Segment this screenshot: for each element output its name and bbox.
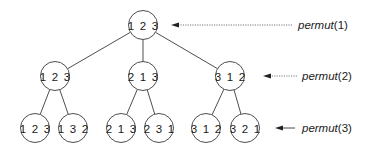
- tree-edge-l2a-l3a: [40, 90, 50, 115]
- tree-nodes: 1 2 31 2 32 1 33 1 21 2 31 3 22 1 32 3 1…: [20, 11, 262, 143]
- node-permutation-label: 1 2 3: [128, 20, 160, 32]
- tree-edge-l2c-l3e: [212, 89, 224, 115]
- tree-node-l3d: 2 3 1: [144, 114, 176, 143]
- level-1-label: permut(1): [297, 19, 348, 31]
- node-permutation-label: 1 3 2: [58, 123, 90, 135]
- level-1-argument: (1): [334, 19, 348, 31]
- level-2-function-name: permut: [301, 70, 339, 82]
- level-2-annotation: permut(2): [263, 70, 352, 82]
- level-2-argument: (2): [338, 70, 352, 82]
- node-permutation-label: 1 2 3: [20, 123, 52, 135]
- tree-node-l3f: 3 2 1: [230, 114, 262, 143]
- permutation-recursion-tree: 1 2 31 2 32 1 33 1 21 2 31 3 22 1 32 3 1…: [0, 0, 372, 150]
- level-2-label: permut(2): [301, 70, 352, 82]
- tree-edge-l2b-l3d: [147, 90, 154, 114]
- tree-node-l2c: 3 1 2: [215, 62, 247, 91]
- node-permutation-label: 2 3 1: [144, 123, 176, 135]
- tree-node-l3b: 1 3 2: [58, 114, 90, 143]
- node-permutation-label: 1 2 3: [40, 71, 72, 83]
- node-permutation-label: 3 1 2: [215, 71, 247, 83]
- tree-node-root: 1 2 3: [128, 11, 160, 40]
- level-3-argument: (3): [338, 122, 352, 134]
- tree-node-l3e: 3 1 2: [191, 114, 223, 143]
- node-permutation-label: 3 2 1: [230, 123, 262, 135]
- arrow-left-icon: [171, 23, 179, 28]
- arrow-left-icon: [275, 126, 283, 131]
- node-permutation-label: 3 1 2: [191, 123, 223, 135]
- tree-edge-root-l2a: [68, 32, 131, 68]
- tree-node-l2a: 1 2 3: [40, 62, 72, 91]
- tree-node-l3c: 2 1 3: [106, 114, 138, 143]
- tree-edge-root-l2c: [156, 32, 218, 68]
- tree-node-l3a: 1 2 3: [20, 114, 52, 143]
- tree-edge-l2c-l3f: [234, 90, 241, 114]
- level-3-function-name: permut: [301, 122, 339, 134]
- node-permutation-label: 2 1 3: [106, 123, 138, 135]
- tree-edge-l2a-l3b: [60, 90, 69, 115]
- tree-node-l2b: 2 1 3: [128, 62, 160, 91]
- tree-edge-l2b-l3c: [127, 89, 138, 114]
- level-1-function-name: permut: [297, 19, 335, 31]
- node-permutation-label: 2 1 3: [128, 71, 160, 83]
- arrow-left-icon: [263, 74, 271, 79]
- level-3-label: permut(3): [301, 122, 352, 134]
- level-1-annotation: permut(1): [171, 19, 348, 31]
- level-3-annotation: permut(3): [275, 122, 352, 134]
